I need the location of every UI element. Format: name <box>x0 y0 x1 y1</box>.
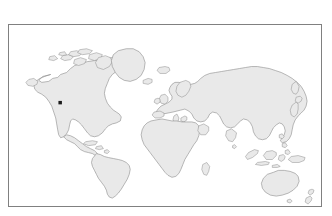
landmass-tasmania <box>287 199 292 203</box>
landmass-africa <box>141 119 200 177</box>
landmass-sulawesi <box>278 155 285 162</box>
landmass-arctic-islet-a <box>59 52 67 56</box>
landmass-iceland <box>157 67 170 74</box>
landmass-great-britain <box>159 94 168 104</box>
landmass-ireland <box>154 98 160 104</box>
landmass-greenland <box>111 49 145 82</box>
world-map-canvas <box>9 25 321 206</box>
landmass-java <box>255 161 269 165</box>
landmass-madagascar <box>202 162 210 175</box>
landmass-arctic-islet-b <box>49 56 58 61</box>
map-frame <box>8 24 322 207</box>
landmass-philippines-2 <box>285 150 290 155</box>
landmass-hispaniola <box>95 146 103 150</box>
landmass-canadian-arctic-3 <box>78 49 93 55</box>
landmass-north-america <box>34 57 126 138</box>
landmass-new-zealand-south <box>305 196 312 204</box>
landmass-new-guinea <box>288 156 305 163</box>
landmass-philippines-1 <box>282 143 287 148</box>
landmass-lesser-sunda <box>272 164 280 167</box>
location-marker-dot[interactable] <box>58 101 61 104</box>
landmass-australia <box>261 170 299 196</box>
landmass-sumatra <box>245 150 258 160</box>
landmass-cuba <box>84 141 98 146</box>
landmass-iberia <box>152 111 164 118</box>
landmass-sri-lanka <box>233 145 237 149</box>
landmass-lesser-antilles <box>104 150 109 154</box>
landmass-greenland-islet <box>143 78 152 84</box>
map-figure-root <box>0 0 332 216</box>
landmass-new-zealand-north <box>308 189 314 195</box>
landmass-borneo <box>263 151 276 160</box>
landmass-balkans-greece <box>181 116 187 122</box>
landmass-south-america <box>91 154 130 199</box>
landmass-arabian-peninsula <box>198 124 209 135</box>
landmass-india <box>226 129 237 142</box>
